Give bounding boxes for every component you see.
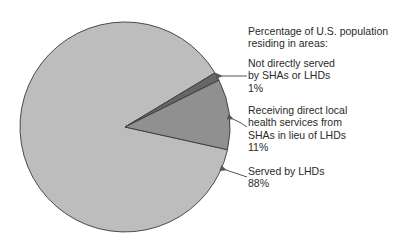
label-line: Served by LHDs [248, 165, 324, 177]
chart-title-line: residing in areas: [248, 37, 388, 49]
label-not-directly-served: Not directly served by SHAs or LHDs 1% [248, 57, 335, 94]
label-receiving-direct-services: Receiving direct local health services f… [248, 104, 347, 154]
label-served-by-lhds: Served by LHDs 88% [248, 165, 324, 190]
label-line: by SHAs or LHDs [248, 69, 335, 81]
callout-arrow-served-by-lhds [226, 170, 247, 177]
label-line: Receiving direct local [248, 104, 347, 116]
label-value: 1% [248, 82, 335, 94]
callout-arrow-receiving-direct-services [233, 119, 247, 127]
label-value: 88% [248, 177, 324, 189]
chart-title-line: Percentage of U.S. population [248, 25, 388, 37]
label-line: health services from [248, 116, 347, 128]
label-line: SHAs in lieu of LHDs [248, 129, 347, 141]
label-value: 11% [248, 141, 347, 153]
chart-title: Percentage of U.S. population residing i… [248, 25, 388, 50]
label-line: Not directly served [248, 57, 335, 69]
